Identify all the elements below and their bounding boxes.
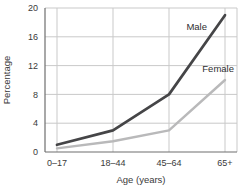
female-series-label: Female: [202, 63, 234, 74]
y-tick-label: 20: [28, 3, 38, 13]
y-tick-label: 0: [33, 147, 38, 157]
y-tick-label: 16: [28, 32, 38, 42]
line-chart: MaleFemale0481216200–1718–4445–6465+Age …: [0, 0, 240, 191]
y-tick-label: 4: [33, 118, 38, 128]
x-tick-label: 45–64: [156, 158, 181, 168]
x-tick-label: 0–17: [47, 158, 67, 168]
y-axis-title: Percentage: [1, 56, 12, 105]
x-axis-title: Age (years): [116, 174, 165, 185]
y-tick-label: 8: [33, 90, 38, 100]
chart-container: MaleFemale0481216200–1718–4445–6465+Age …: [0, 0, 240, 191]
x-tick-label: 65+: [217, 158, 232, 168]
male-series-label: Male: [186, 21, 207, 32]
x-tick-label: 18–44: [100, 158, 125, 168]
y-tick-label: 12: [28, 61, 38, 71]
